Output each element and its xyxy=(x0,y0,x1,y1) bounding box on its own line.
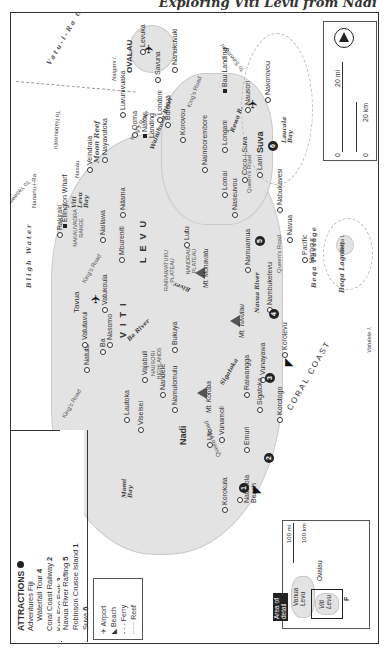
vatulele-island-label: Vatulele I. xyxy=(366,327,372,353)
attractions-heading: ATTRACTIONS xyxy=(17,561,26,631)
inset-area-callout: Area of detail xyxy=(273,593,288,621)
beach-icon: ◣ xyxy=(285,356,293,367)
attraction-dot-icon xyxy=(17,561,24,568)
town-qoma: Qoma xyxy=(131,111,138,138)
town-bukuya: Bukuya xyxy=(171,322,178,353)
key-airport: ✈ Airport xyxy=(100,606,107,634)
coral-coast-label: CORAL COAST xyxy=(286,340,332,412)
town-sigatoka: Sigatoka xyxy=(256,378,263,413)
town-longani: Longani xyxy=(221,120,228,153)
town-nakorovou: Nakorovou xyxy=(264,61,271,103)
beqa-reef xyxy=(323,218,373,290)
inset-viti-levu-label: Viti Levu xyxy=(319,591,332,609)
scale-zero-label: 0 xyxy=(334,153,341,157)
attraction-marker-2[interactable]: 2 xyxy=(264,453,274,463)
town-nanukuvuki: Nanukuvuki xyxy=(171,28,178,73)
ferry-icon: - - - xyxy=(120,623,127,634)
town-nadi: Nadi xyxy=(179,425,188,445)
scale-mi-label: 20 mi xyxy=(334,70,341,87)
town-korovou: Korovou xyxy=(179,109,186,143)
town-namulomulu: Namulomulu xyxy=(171,366,178,413)
town-veindraia: Veindraia xyxy=(86,136,93,173)
map-key: ✈ Airport ◣ Beach - - - Ferry ~~~ Reef xyxy=(93,578,143,640)
scale-box: 20 mi 20 km 0 0 xyxy=(323,21,377,161)
attraction-marker-1[interactable]: 1 xyxy=(239,483,249,493)
attraction-item[interactable]: Waterfall Tour 4 xyxy=(36,569,44,621)
bligh-water-label: Bligh Water xyxy=(26,223,33,288)
town-raiwangga: Raiwangga xyxy=(243,355,250,398)
naigani-island-label: Naigani I. xyxy=(111,56,117,81)
to-nabouwalu-label: To Nabouwalu xyxy=(53,111,61,149)
town-pacific-harbour: Pacific Harbour xyxy=(301,229,315,263)
town-bau-landing: Bau Landing xyxy=(221,48,228,93)
town-nasomo: Nasomo xyxy=(106,314,113,348)
town-nailawa: Nailawa xyxy=(99,210,106,243)
town-luvunivuaka: Luvunivuaka xyxy=(119,71,126,118)
key-reef: ~~~ Reef xyxy=(130,605,137,634)
compass-north-icon xyxy=(334,28,354,48)
town-lomai: Lomai xyxy=(221,171,228,198)
attractions-legend: ATTRACTIONS Adventures Fiji Waterfall To… xyxy=(11,430,62,642)
inset-vanua-levu-label: Vanua Levu xyxy=(293,586,306,606)
attraction-item[interactable]: Robinson Crusoe Island 1 xyxy=(72,544,80,630)
town-namuamua: Namuamua xyxy=(244,229,251,273)
laucala-bay-label: Laucala Bay xyxy=(281,119,293,143)
town-korotogo: Korotogo xyxy=(276,387,283,423)
airport-icon: ✈ xyxy=(90,294,102,304)
town-londoni: Londoni xyxy=(156,90,163,123)
town-savuna: Savuna xyxy=(154,51,161,83)
attraction-marker-5[interactable]: 5 xyxy=(255,236,265,246)
town-vunamoli: Vunamoli xyxy=(218,406,225,443)
inset-scale-mi: 100 mi xyxy=(286,525,292,543)
key-beach: ◣ Beach xyxy=(110,607,117,634)
town-nasau: Nasau xyxy=(74,161,80,178)
town-lautoka: Lautoka xyxy=(123,390,130,423)
town-natovi-landing: Natovi Landing xyxy=(141,106,155,138)
viti-label: VITI xyxy=(119,297,128,338)
levu-label: LEVU xyxy=(139,215,148,263)
attraction-item[interactable]: Coral Coast Railway 2 xyxy=(46,557,54,631)
town-lutu: Lutu xyxy=(183,226,190,248)
town-natutu: Natutu xyxy=(83,344,90,373)
inset-scale-bar xyxy=(293,523,294,563)
viti-levu-bay-label: Viti Levu Bay xyxy=(71,180,89,208)
inset-fiji-label: F xyxy=(343,597,350,601)
town-korokula: Korokula xyxy=(221,477,228,513)
town-nabukavesi: Nabukavesi xyxy=(276,168,283,213)
town-ndama: Ndama xyxy=(119,187,126,218)
airport-icon: ✈ xyxy=(247,99,259,109)
attraction-item[interactable]: Adventures Fiji xyxy=(27,581,35,631)
page-title: Exploring Viti Levu from Nadi xyxy=(159,0,377,10)
town-vajabuli: Vajabuli xyxy=(141,351,148,383)
legend-divider xyxy=(87,430,88,642)
scale-bar-mi xyxy=(342,62,343,152)
attraction-marker-4[interactable]: 4 xyxy=(269,309,279,319)
mt-tuvutau-label: Mt. Tuvutau xyxy=(239,304,246,338)
town-nandele: Nandele xyxy=(159,364,166,398)
town-navua: Navua xyxy=(286,215,293,243)
attraction-marker-6[interactable]: 6 xyxy=(268,141,278,151)
inset-map: Area of detail Vanua Levu Viti Levu Oval… xyxy=(282,520,370,629)
moon-reef-label: Moon Reef xyxy=(93,121,100,163)
airport-icon: ✈ xyxy=(143,44,155,54)
attraction-item[interactable]: Navua River Rafting 5 xyxy=(62,557,70,630)
ovalau-label: OVALAU xyxy=(126,40,134,73)
town-vatutavui: Vatutavui xyxy=(81,311,88,348)
town-viseisei: Viseisei xyxy=(137,401,144,433)
attraction-marker-3[interactable]: 3 xyxy=(265,373,275,383)
reef-icon: ~~~ xyxy=(130,622,137,634)
town-naimborembore: Naimborembore xyxy=(201,115,208,173)
beach-icon: ◣ xyxy=(253,483,261,494)
scale-zero-label: 0 xyxy=(362,153,369,157)
mt-monavatu-label: Mt. Monavatu xyxy=(203,249,210,288)
town-burerua: Burerua xyxy=(164,95,171,128)
queens-road-label: Queen's Road xyxy=(276,235,282,273)
attraction-item[interactable]: Suva 6 xyxy=(82,607,90,630)
town-ellington-wharf: Ellington Wharf xyxy=(61,175,68,228)
momi-bay-label: Momi Bay xyxy=(121,476,133,498)
town-naseuvou: Naseuvou xyxy=(231,178,238,218)
town-mbureniti: Mbureniti xyxy=(118,226,125,263)
nakauvadra-range-label: NAKAUVADRA RANGE xyxy=(73,208,84,248)
town-nambukelevu: Nambukelevu xyxy=(266,262,273,313)
scale-km-label: 20 km xyxy=(362,103,369,122)
